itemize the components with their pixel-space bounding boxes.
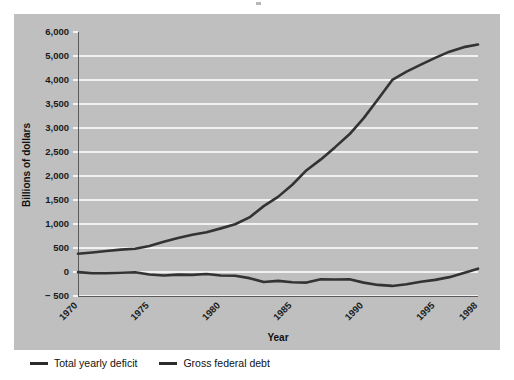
y-tick-label: 0 (64, 266, 69, 277)
x-tick-label: 1970 (57, 300, 80, 323)
y-tick-label: 1,500 (45, 194, 69, 205)
y-tick-label: 1,000 (45, 218, 69, 229)
axis-lines (78, 32, 478, 296)
chart-figure: 6,0005,0004,0003,5003,0002,5002,0001,500… (0, 0, 514, 380)
series-line-total-yearly-deficit (78, 269, 478, 286)
y-tick-label: 3,500 (45, 98, 69, 109)
y-tick-label: 4,000 (45, 74, 69, 85)
tick-marks (73, 32, 78, 296)
series-line-gross-federal-debt (78, 45, 478, 254)
legend-item-total-yearly-deficit[interactable]: Total yearly deficit (30, 357, 137, 369)
x-axis-tick-labels: 1970197519801985199019951998 (57, 299, 480, 322)
y-tick-label: − 500 (45, 290, 69, 301)
legend-swatch-icon (159, 362, 177, 365)
y-tick-label: 3,000 (45, 122, 69, 133)
y-tick-label: 2,500 (45, 146, 69, 157)
gridlines (78, 56, 478, 296)
x-tick-label: 1995 (414, 299, 437, 322)
x-tick-label: 1985 (271, 299, 294, 322)
y-axis-title: Billions of dollars (21, 123, 32, 207)
chart-legend: Total yearly deficit Gross federal debt (30, 357, 270, 369)
x-axis-title: Year (267, 332, 288, 343)
y-axis-tick-labels: 6,0005,0004,0003,5003,0002,5002,0001,500… (45, 26, 69, 301)
legend-item-label: Total yearly deficit (54, 357, 137, 369)
data-series (78, 45, 478, 286)
x-tick-label: 1980 (200, 300, 223, 323)
y-tick-label: 5,000 (45, 50, 69, 61)
x-tick-label: 1975 (128, 299, 151, 322)
y-tick-label: 6,000 (45, 26, 69, 37)
y-tick-label: 2,000 (45, 170, 69, 181)
legend-item-label: Gross federal debt (183, 357, 269, 369)
legend-swatch-icon (30, 362, 48, 365)
y-tick-label: 500 (53, 242, 69, 253)
x-tick-label: 1998 (457, 300, 480, 323)
line-chart: 6,0005,0004,0003,5003,0002,5002,0001,500… (0, 0, 514, 380)
x-tick-label: 1990 (342, 300, 365, 323)
legend-item-gross-federal-debt[interactable]: Gross federal debt (159, 357, 269, 369)
